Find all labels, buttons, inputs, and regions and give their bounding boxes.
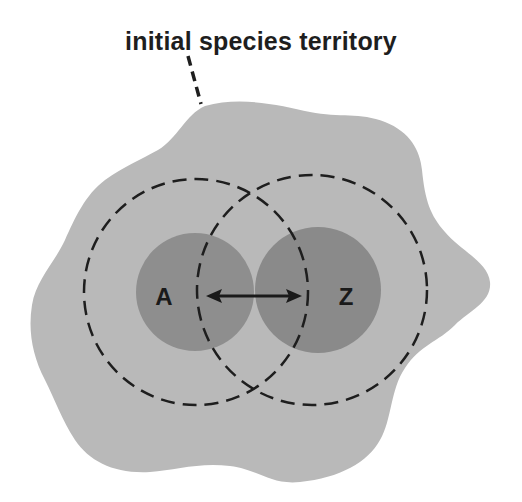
population-a-label: A xyxy=(155,283,172,310)
population-z-label: Z xyxy=(339,283,354,310)
population-a-circle xyxy=(136,233,254,351)
species-territory-diagram: initial species territory A Z xyxy=(0,0,522,502)
leader-line xyxy=(188,56,201,104)
population-z-circle xyxy=(255,227,381,353)
